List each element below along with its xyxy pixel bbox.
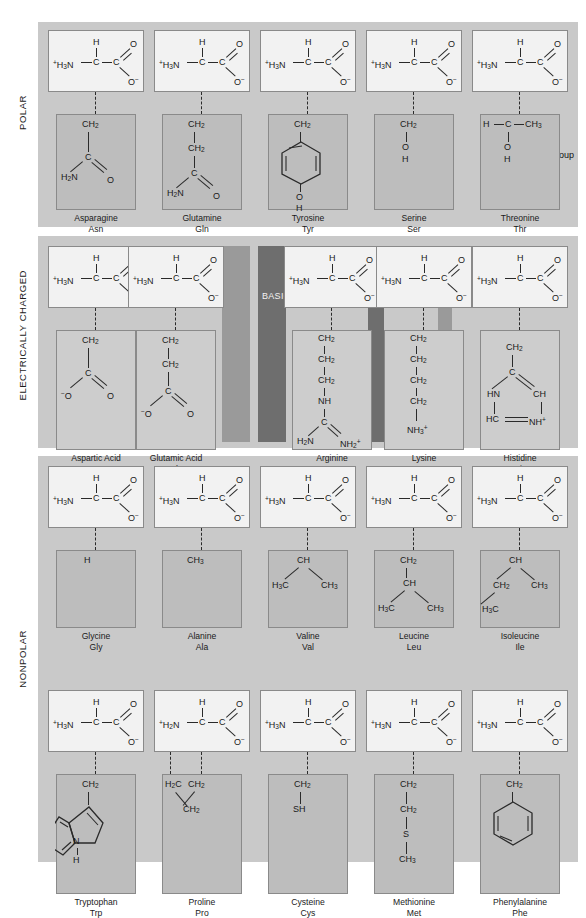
alpha-hydrogen: H <box>93 698 100 707</box>
carbonyl-oxygen: O <box>366 256 373 265</box>
ch2-group: CH2 <box>82 780 99 790</box>
carbonyl-oxygen: O <box>342 700 349 709</box>
bond-ch2-ch2-c <box>416 388 417 396</box>
alpha-carbon-atom: C <box>93 718 100 727</box>
hydroxyl-hydrogen: H <box>504 155 511 164</box>
carbonyl-oxygen: O <box>130 476 137 485</box>
ch2-group-3: CH2 <box>318 376 335 386</box>
amino-acid-arginine: +H3N C H C O O− CH2 CH2 CH2 NH C NH <box>284 246 380 474</box>
bond-ca-h <box>202 484 203 493</box>
imidazole-hc: HC <box>486 415 499 424</box>
r-group-panel: CH H3C CH3 <box>268 550 348 628</box>
hydroxyl-hydrogen: H <box>402 155 409 164</box>
bond-n-ca <box>399 498 410 499</box>
carboxylate-oxygen: O− <box>552 735 563 747</box>
sulfur-atom: S <box>403 830 409 839</box>
alpha-hydrogen: H <box>421 254 428 263</box>
alpha-hydrogen: H <box>93 38 100 47</box>
alpha-carbon-connector <box>519 92 520 114</box>
alpha-carbon-atom: C <box>173 274 180 283</box>
carbonyl-oxygen: O <box>448 40 455 49</box>
ch2-group: CH2 <box>294 120 311 130</box>
bond-ca-c <box>208 722 218 723</box>
carboxylate-carbon: C <box>165 387 172 396</box>
bond-n-ca <box>505 498 516 499</box>
bond-ca-h <box>202 48 203 57</box>
bond-n-ca <box>505 62 516 63</box>
bond-ca-c <box>526 722 536 723</box>
alpha-carbon-connector <box>413 752 414 774</box>
r-group-panel: CH2 C O −O <box>56 330 136 450</box>
amino-acid-leucine: +H3N C H C O O− CH2 CH H3C CH3 Leucine L… <box>366 466 462 652</box>
carbonyl-oxygen: O <box>187 410 194 419</box>
backbone-panel: +H3N C H C O O− <box>472 690 568 752</box>
bond-n-ca <box>187 498 198 499</box>
amino-acid-name: Isoleucine <box>472 631 568 642</box>
category-label-polar: POLAR <box>17 95 28 130</box>
amino-acid-abbr: Gln <box>154 224 250 235</box>
methyl-group: CH3 <box>399 855 416 865</box>
alpha-carbon-connector <box>201 92 202 114</box>
alpha-carbon-connector <box>201 752 202 774</box>
category-label-charged: ELECTRICALLY CHARGED <box>17 270 28 401</box>
bond-ch2-ch2-a <box>324 346 325 354</box>
backbone-panel: +H3N C H C O O− <box>366 690 462 752</box>
nh-group: NH <box>318 397 331 406</box>
backbone-panel: +H3N C H C O O− <box>154 466 250 528</box>
r-group-panel: CH2 SH <box>268 774 348 894</box>
alpha-carbon-atom: C <box>517 494 524 503</box>
amino-acid-abbr: Val <box>260 642 356 653</box>
bond-ca-c <box>208 498 218 499</box>
bond-n-ca <box>409 278 420 279</box>
indole-nitrogen: N <box>73 837 80 846</box>
carboxylate-oxygen: O− <box>340 511 351 523</box>
alpha-carbon-atom: C <box>421 274 428 283</box>
carboxyl-carbon: C <box>537 58 544 67</box>
amino-group: +H3N <box>159 494 180 507</box>
ch2-group: CH2 <box>82 120 99 130</box>
amino-acid-lysine: +H3N C H C O O− CH2 CH2 CH2 CH2 NH3+ Lys… <box>376 246 472 474</box>
bond-ca-h <box>96 708 97 717</box>
bond-c-o <box>508 132 509 142</box>
alpha-carbon-atom: C <box>411 494 418 503</box>
bond-ca-h <box>96 264 97 273</box>
amide-oxygen: O <box>107 176 114 185</box>
carboxylate-oxygen: O− <box>552 511 563 523</box>
bond-ch2-ch2 <box>194 132 195 143</box>
backbone-panel: +H2N C H C O O− <box>154 690 250 752</box>
hydroxyl-oxygen: O <box>296 193 303 202</box>
amide-carbon: C <box>85 153 92 162</box>
bond-n-ca <box>505 722 516 723</box>
amide-carbon: C <box>191 169 198 178</box>
alpha-carbon-connector <box>95 308 96 330</box>
amino-acid-isoleucine: +H3N C H C O O− CH CH2 CH3 H3C Isoleucin… <box>472 466 568 652</box>
bond-ca-c <box>314 722 324 723</box>
carboxylate-oxygen-minus: −O <box>141 407 152 419</box>
amino-group: +H3N <box>53 58 74 71</box>
ch2-group-2: CH2 <box>318 355 335 365</box>
bond-nh-c <box>324 409 325 417</box>
backbone-panel: +H3N C H C O O− <box>260 30 356 92</box>
carboxyl-carbon: C <box>219 58 226 67</box>
bond-n-ca <box>399 722 410 723</box>
amino-acid-proline: +H2N C H C O O− H2C CH2 CH2 Proline Pro <box>154 690 250 918</box>
bond-ca-h <box>202 708 203 717</box>
bond-ch-nh <box>541 402 542 414</box>
carboxyl-carbon: C <box>219 494 226 503</box>
bond-ch2-c <box>168 372 169 386</box>
amino-group: +H3N <box>477 494 498 507</box>
alpha-carbon-atom: C <box>305 58 312 67</box>
carboxylate-oxygen: O− <box>446 75 457 87</box>
bond-c-o-double-a <box>197 178 210 189</box>
beta-ch-group: CH <box>297 556 310 565</box>
backbone-panel: +H3N C H C O O− <box>154 30 250 92</box>
carboxyl-carbon: C <box>349 274 356 283</box>
alpha-carbon-connector <box>413 528 414 550</box>
bond-ca-h <box>308 48 309 57</box>
bond-n-ca <box>81 278 92 279</box>
beta-carbon: C <box>505 120 512 129</box>
amino-acid-name: Tyrosine <box>260 213 356 224</box>
amide-oxygen: O <box>213 192 220 201</box>
carbonyl-oxygen: O <box>342 40 349 49</box>
